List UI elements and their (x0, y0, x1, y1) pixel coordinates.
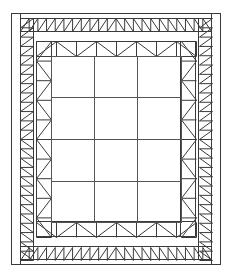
truss-diagram-canvas (0, 0, 232, 278)
truss-diagram-svg (0, 0, 232, 278)
